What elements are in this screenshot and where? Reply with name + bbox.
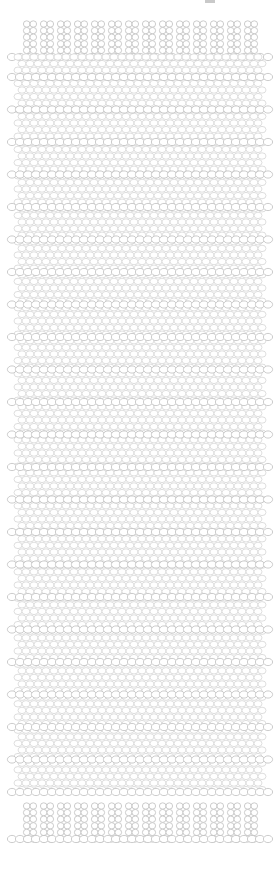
bead	[142, 809, 149, 815]
bead	[30, 344, 38, 350]
bead	[98, 602, 106, 608]
bead	[134, 476, 142, 482]
bead	[50, 615, 58, 621]
bead	[86, 635, 94, 641]
bead	[38, 674, 46, 680]
bead	[122, 734, 130, 740]
bead	[90, 575, 98, 581]
bead	[54, 384, 62, 390]
bead	[186, 311, 194, 317]
bead	[22, 608, 30, 614]
bead	[86, 67, 94, 73]
bead	[38, 67, 46, 73]
bead	[78, 120, 86, 126]
bead	[26, 285, 34, 291]
bead	[210, 192, 218, 198]
bead	[126, 80, 134, 86]
bead	[82, 575, 90, 581]
bead	[226, 219, 234, 225]
bead	[70, 635, 78, 641]
bead	[234, 816, 241, 822]
bead	[202, 351, 210, 357]
bead	[250, 351, 258, 357]
bead	[86, 252, 94, 258]
bead	[149, 47, 156, 53]
bead	[238, 476, 246, 482]
bead	[62, 542, 70, 548]
bead	[102, 582, 110, 588]
bead	[50, 602, 58, 608]
bead	[42, 258, 50, 264]
bead	[34, 443, 42, 449]
bead	[118, 67, 126, 73]
bead	[166, 212, 174, 218]
bead	[154, 509, 162, 515]
bead	[50, 456, 58, 462]
bead	[170, 324, 178, 330]
bead	[158, 569, 166, 575]
bead	[98, 87, 106, 93]
bead	[251, 47, 258, 53]
bead	[178, 641, 186, 647]
bead	[190, 648, 198, 654]
bead	[166, 357, 174, 363]
bead	[186, 153, 194, 159]
bead	[142, 146, 150, 152]
bead	[170, 87, 178, 93]
bead	[98, 641, 106, 647]
bead	[198, 569, 206, 575]
bead	[58, 126, 66, 132]
bead	[26, 747, 34, 753]
bead	[170, 390, 178, 396]
bead	[110, 780, 118, 786]
bead	[254, 542, 262, 548]
bead	[66, 100, 74, 106]
bead	[258, 641, 266, 647]
bead	[146, 87, 154, 93]
bead	[98, 324, 106, 330]
bead	[58, 100, 66, 106]
bead	[125, 47, 132, 53]
bead	[150, 252, 158, 258]
bead	[251, 21, 258, 27]
bead	[194, 179, 202, 185]
bead	[118, 278, 126, 284]
bead	[74, 351, 82, 357]
bead	[138, 641, 146, 647]
bead	[251, 816, 258, 822]
bead	[90, 113, 98, 119]
bead	[26, 113, 34, 119]
bead	[178, 509, 186, 515]
bead	[242, 668, 250, 674]
bead	[182, 780, 190, 786]
bead	[98, 575, 106, 581]
bead	[138, 192, 146, 198]
bead	[126, 740, 134, 746]
bead	[138, 219, 146, 225]
bead	[183, 816, 190, 822]
bead	[30, 93, 38, 99]
bead	[30, 120, 38, 126]
bead	[86, 54, 94, 60]
bead	[34, 390, 42, 396]
bead	[250, 668, 258, 674]
bead	[81, 47, 88, 53]
bead	[166, 146, 174, 152]
bead	[86, 569, 94, 575]
bead	[66, 113, 74, 119]
bead	[86, 767, 94, 773]
bead	[182, 423, 190, 429]
bead	[159, 829, 166, 835]
bead	[218, 87, 226, 93]
bead	[108, 47, 115, 53]
bead	[64, 809, 71, 815]
bead	[254, 569, 262, 575]
bead	[198, 423, 206, 429]
bead	[154, 615, 162, 621]
bead	[114, 707, 122, 713]
bead	[254, 674, 262, 680]
bead	[138, 417, 146, 423]
bead	[82, 351, 90, 357]
bead	[174, 225, 182, 231]
bead	[198, 476, 206, 482]
